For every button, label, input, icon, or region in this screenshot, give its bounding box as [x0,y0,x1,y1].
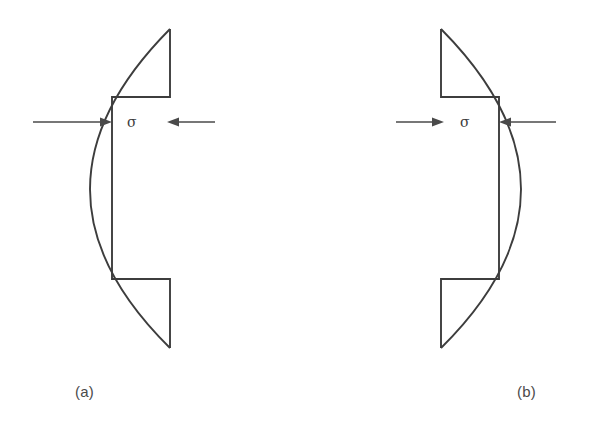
diagram-panel-b: σ (b) [306,0,611,436]
diagram-panel-a: σ (a) [0,0,305,436]
figure-root: σ (a) σ (b) [0,0,611,436]
stress-curve-b [441,29,521,348]
panel-caption-a: (a) [0,383,237,400]
load-arrow-left-b [396,118,444,127]
stress-block-outline-b [441,29,499,348]
stress-curve-a [90,29,170,348]
stress-symbol-b: σ [460,114,470,130]
load-arrow-right-a [167,118,215,127]
load-arrow-right-b [499,118,556,127]
panel-a-drawing: σ [0,0,305,436]
stress-symbol-a: σ [127,114,137,130]
panel-b-drawing: σ [306,0,611,436]
panel-caption-b: (b) [374,383,611,400]
load-arrow-right-a-head [167,118,179,127]
load-arrow-left-a [33,118,112,127]
stress-block-outline-a [112,29,170,348]
load-arrow-left-b-head [432,118,444,127]
